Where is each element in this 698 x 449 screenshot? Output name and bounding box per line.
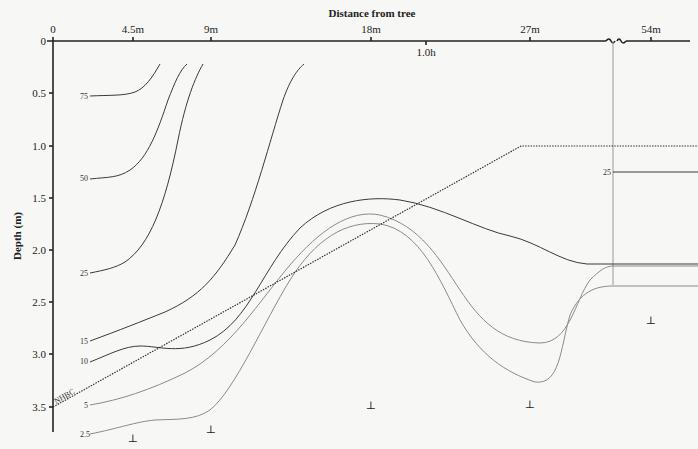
- foundation-marker-icon: ⊥: [366, 399, 376, 411]
- contours-light: [90, 214, 698, 434]
- x-tick-18m: 18m: [361, 23, 381, 35]
- contour-50: [90, 64, 187, 179]
- contour-label-25: 25: [80, 269, 88, 278]
- x-tick-0: 0: [50, 23, 56, 35]
- contour-10: [90, 199, 698, 362]
- contour-15: [90, 64, 304, 341]
- contour-label-5: 5: [84, 401, 88, 410]
- diagram-title: Distance from tree: [329, 7, 416, 19]
- y-axis: 0 0.5 1.0 1.5 2.0 2.5 3.0 3.5 Depth (m): [11, 35, 53, 432]
- x-axis: 0 4.5m 9m 18m 27m 54m 1.0h: [47, 23, 690, 58]
- nhbc-label: NHBC: [53, 387, 77, 406]
- y-tick-3-5: 3.5: [32, 401, 46, 413]
- foundation-marker-icon: ⊥: [525, 398, 535, 410]
- contour-label-10: 10: [80, 357, 88, 366]
- contour-label-15: 15: [80, 337, 88, 346]
- foundation-marker-icon: ⊥: [206, 423, 216, 435]
- contour-label-25-right: 25: [603, 168, 611, 177]
- y-tick-0: 0: [41, 35, 47, 47]
- contour-5: [90, 214, 698, 405]
- y-tick-1-5: 1.5: [32, 192, 46, 204]
- y-tick-0-5: 0.5: [32, 87, 46, 99]
- foundation-markers: ⊥ ⊥ ⊥ ⊥ ⊥: [128, 314, 656, 444]
- x-tick-9m: 9m: [204, 23, 219, 35]
- contour-75: [90, 64, 160, 96]
- height-marker-label: 1.0h: [416, 46, 436, 58]
- contours-dark: [90, 64, 698, 362]
- y-tick-2-5: 2.5: [32, 296, 46, 308]
- y-tick-3-0: 3.0: [32, 348, 46, 360]
- y-tick-2-0: 2.0: [32, 244, 46, 256]
- x-tick-54m: 54m: [641, 23, 661, 35]
- x-tick-27m: 27m: [520, 23, 540, 35]
- foundation-marker-icon: ⊥: [646, 314, 656, 326]
- x-tick-4-5m: 4.5m: [122, 23, 145, 35]
- contour-label-2-5: 2.5: [80, 430, 90, 439]
- foundation-marker-icon: ⊥: [128, 432, 138, 444]
- y-tick-1-0: 1.0: [32, 140, 46, 152]
- nhbc-line: [53, 146, 698, 407]
- contour-label-75: 75: [80, 92, 88, 101]
- contour-label-50: 50: [80, 174, 88, 183]
- y-axis-title: Depth (m): [11, 212, 24, 260]
- contour-labels: 75 50 25 15 10 5 2.5 25: [80, 92, 611, 439]
- tree-root-depth-diagram: Distance from tree 0 4.5m 9m 18m 27m 54m…: [0, 0, 698, 449]
- contour-2-5: [90, 223, 698, 434]
